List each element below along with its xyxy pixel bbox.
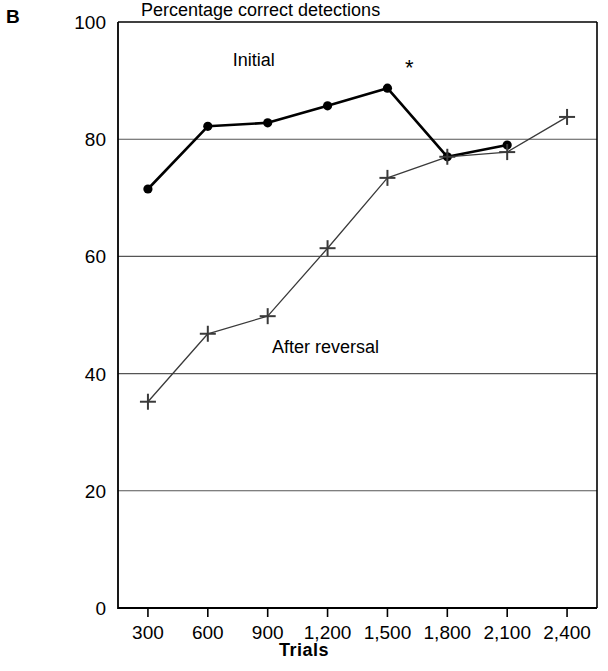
- series-line: [148, 117, 567, 402]
- data-point-marker: [203, 122, 212, 131]
- data-point-marker: [263, 118, 272, 127]
- axis-lines: [118, 22, 597, 608]
- series-label: After reversal: [272, 337, 379, 357]
- data-point-marker: [323, 101, 332, 110]
- y-tick-label: 40: [85, 364, 106, 385]
- chart-annotations: InitialAfter reversal*: [233, 50, 414, 357]
- y-tick-label: 20: [85, 481, 106, 502]
- line-chart: 020406080100 3006009001,2001,5001,8002,1…: [0, 0, 608, 671]
- x-axis-title: Trials: [0, 640, 608, 661]
- y-tick-label: 100: [74, 12, 106, 33]
- gridlines: [118, 139, 597, 491]
- series-label: Initial: [233, 50, 275, 70]
- data-point-marker: [383, 84, 392, 93]
- y-tick-label: 80: [85, 129, 106, 150]
- y-tick-labels: 020406080100: [74, 12, 106, 619]
- series-markers: [140, 84, 575, 410]
- y-tick-label: 60: [85, 246, 106, 267]
- y-tick-label: 0: [95, 598, 106, 619]
- significance-star: *: [405, 55, 414, 80]
- figure-panel-b: B Percentage correct detections 02040608…: [0, 0, 608, 671]
- x-tick-marks: [148, 608, 567, 617]
- axes: [118, 22, 597, 608]
- data-point-marker: [143, 184, 152, 193]
